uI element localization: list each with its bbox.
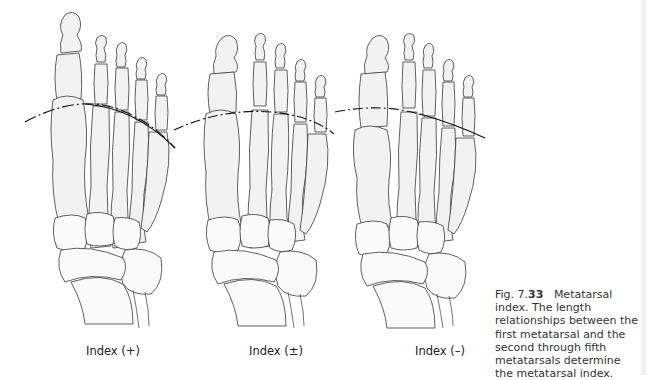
foot-illustration-index-plusminus	[172, 0, 342, 330]
panel-label-index-plus: Index (+)	[86, 344, 140, 358]
page-edge-shadow	[639, 0, 647, 375]
foot-skeleton-icon	[15, 0, 185, 330]
figure-caption: Fig. 7.33 Metatarsal index. The length r…	[495, 288, 640, 380]
caption-number: 33	[528, 288, 543, 301]
foot-skeleton-icon	[325, 0, 495, 330]
caption-prefix: Fig. 7.	[495, 288, 528, 301]
foot-skeleton-icon	[172, 0, 342, 330]
foot-illustration-index-plus	[15, 0, 185, 330]
foot-illustration-index-minus	[325, 0, 495, 330]
metatarsal-index-figure: Index (+) Index (±) Index (–)	[0, 0, 480, 375]
panel-label-index-minus: Index (–)	[415, 344, 465, 358]
panel-label-index-plusminus: Index (±)	[249, 344, 303, 358]
